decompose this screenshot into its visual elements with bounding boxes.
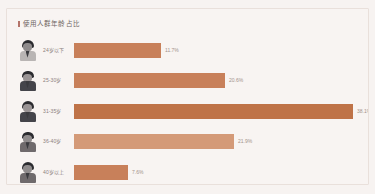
category-label: 24岁以下	[43, 47, 74, 54]
person-avatar-icon	[18, 70, 37, 91]
chart-title: 使用人群年龄占比	[18, 19, 80, 28]
bar-value-label: 21.9%	[238, 138, 252, 145]
bar-row: 25-30岁 20.6%	[7, 66, 368, 97]
bar-segment[interactable]	[74, 104, 353, 119]
bar-track: 21.9%	[74, 127, 368, 158]
bar-value-label: 20.6%	[229, 77, 243, 84]
bar-value-label: 11.7%	[165, 47, 179, 54]
bar-segment[interactable]	[74, 165, 128, 180]
category-label: 31-35岁	[43, 108, 74, 115]
bar-row: 36-40岁 21.9%	[7, 127, 368, 158]
category-label: 36-40岁	[43, 138, 74, 145]
bar-track: 38.1%	[74, 96, 369, 127]
bar-track: 20.6%	[74, 66, 368, 97]
person-avatar-icon	[18, 101, 37, 122]
bar-segment[interactable]	[74, 43, 161, 58]
bar-rows-container: 24岁以下 11.7% 25-30岁 20.6%	[7, 35, 368, 184]
bar-track: 11.7%	[74, 35, 368, 66]
bar-row: 24岁以下 11.7%	[7, 35, 368, 66]
person-avatar-icon	[18, 162, 37, 183]
bar-segment[interactable]	[74, 73, 225, 88]
person-avatar-icon	[18, 40, 37, 61]
bar-value-label: 7.6%	[132, 169, 143, 176]
bar-track: 7.6%	[74, 157, 368, 185]
chart-title-text: 使用人群年龄占比	[23, 20, 81, 27]
bar-row: 40岁以上 7.6%	[7, 157, 368, 185]
screenshot-root: 使用人群年龄占比 24岁以下 11.7%	[0, 0, 375, 194]
bar-segment[interactable]	[74, 134, 234, 149]
chart-card: 使用人群年龄占比 24岁以下 11.7%	[6, 8, 369, 185]
bar-row: 31-35岁 38.1%	[7, 96, 368, 127]
person-avatar-icon	[18, 131, 37, 152]
category-label: 40岁以上	[43, 169, 74, 176]
title-accent-mark	[18, 21, 20, 27]
bar-value-label: 38.1%	[357, 108, 369, 115]
category-label: 25-30岁	[43, 77, 74, 84]
